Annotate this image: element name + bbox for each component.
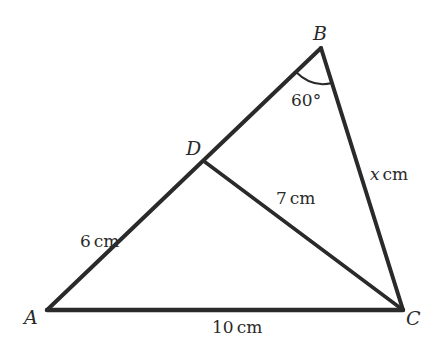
length-dc-label: 7cm <box>276 188 315 208</box>
triangle-diagram: A B C D 60° 6cm 7cm 10cm xcm <box>0 0 436 347</box>
angle-b-arc <box>296 72 332 84</box>
side-ab <box>47 48 321 310</box>
vertex-label-c: C <box>406 307 421 329</box>
angle-b-label: 60° <box>291 90 321 110</box>
vertex-label-a: A <box>22 306 38 328</box>
vertex-label-d: D <box>185 137 201 159</box>
length-ad-label: 6cm <box>80 231 119 251</box>
length-ac-label: 10cm <box>212 317 262 337</box>
vertex-label-b: B <box>312 22 327 44</box>
segment-dc <box>205 162 403 310</box>
length-bc-label: xcm <box>370 164 408 184</box>
